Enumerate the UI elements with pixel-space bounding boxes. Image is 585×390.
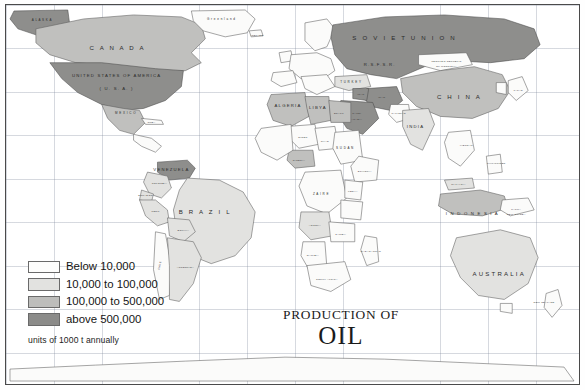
legend-swatch-below-10000 [28, 261, 60, 274]
region-malaysia [444, 178, 474, 190]
legend-label: 100,000 to 500,000 [66, 296, 164, 307]
legend-swatch-10000-to-100000 [28, 278, 60, 291]
region-angola [299, 212, 333, 240]
legend-label: Below 10,000 [66, 261, 135, 272]
region-japan [508, 77, 528, 101]
legend-units-note: units of 1000 t annually [28, 335, 203, 345]
map-title: PRODUCTION OF OIL [256, 308, 426, 350]
legend-row: 10,000 to 100,000 [28, 276, 203, 294]
region-egypt [329, 100, 351, 122]
legend-row: above 500,000 [28, 311, 203, 329]
map-legend: Below 10,000 10,000 to 100,000 100,000 t… [28, 258, 203, 345]
region-zaire [299, 170, 347, 214]
legend-label: above 500,000 [66, 314, 141, 325]
legend-row: Below 10,000 [28, 258, 203, 276]
region-india [403, 108, 435, 150]
region-madagascar [361, 236, 379, 266]
region-philippines [486, 154, 502, 174]
region-antarctica [10, 357, 574, 381]
region-iceland [249, 30, 263, 37]
region-nigeria [287, 150, 315, 168]
map-frame: C A N A D A S O V I E T U N I O N C H I … [5, 4, 580, 385]
region-scandinavia [305, 19, 335, 51]
region-new-zealand [544, 289, 562, 317]
legend-label: 10,000 to 100,000 [66, 279, 158, 290]
map-title-line1: PRODUCTION OF [256, 308, 426, 322]
region-south-africa [307, 262, 351, 292]
legend-swatch-100000-to-500000 [28, 296, 60, 309]
map-title-line2: OIL [256, 322, 426, 350]
region-west-africa [255, 124, 293, 160]
region-turkey [335, 75, 371, 91]
region-tanzania [341, 200, 363, 220]
region-niger [289, 124, 319, 148]
region-central-america [134, 134, 162, 152]
region-zambia [329, 222, 355, 242]
region-korea [496, 83, 506, 95]
region-indochina [444, 130, 474, 166]
region-australia [450, 230, 538, 300]
region-tasmania [500, 303, 512, 313]
region-iraq [353, 89, 369, 101]
legend-swatch-above-500000 [28, 313, 60, 326]
region-italy-balkans [301, 75, 335, 95]
region-papua-new-guinea [500, 198, 534, 216]
region-algeria [267, 93, 309, 127]
region-united-states [50, 63, 184, 111]
region-cuba [142, 118, 164, 124]
oil-production-map-figure: C A N A D A S O V I E T U N I O N C H I … [0, 0, 585, 390]
region-indonesia [438, 190, 508, 216]
region-peru [140, 200, 170, 226]
legend-row: 100,000 to 500,000 [28, 293, 203, 311]
region-iberia [271, 71, 297, 87]
region-kenya [345, 180, 363, 200]
region-libya [305, 97, 331, 125]
